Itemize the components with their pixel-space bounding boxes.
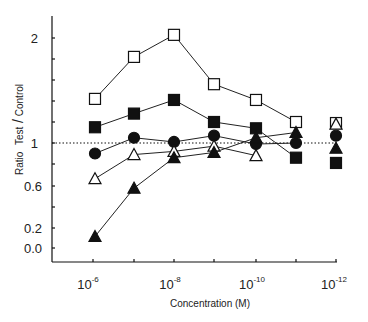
data-point-square-icon: [251, 94, 262, 105]
data-point-square-icon: [209, 117, 220, 128]
line-chart: 2 1 0.6 0.2 0.0 Ratio Test / Control 10-…: [0, 0, 368, 322]
data-point-triangle-icon: [330, 142, 342, 153]
data-point-circle-icon: [331, 130, 342, 141]
y-tick-label: 0.2: [24, 221, 42, 236]
data-point-square-icon: [90, 122, 101, 133]
data-point-triangle-icon: [89, 230, 101, 241]
data-point-square-icon: [129, 108, 140, 119]
y-axis-title: Ratio Test / Control: [10, 84, 26, 175]
data-point-triangle-icon: [89, 173, 101, 184]
data-point-square-icon: [169, 94, 180, 105]
x-tick-label: 10-12: [321, 275, 348, 292]
y-tick-label: 0.0: [24, 241, 42, 256]
data-point-triangle-icon: [290, 127, 302, 138]
x-tick-label: 10-10: [239, 275, 266, 292]
data-point-square-icon: [129, 51, 140, 62]
data-point-square-icon: [169, 29, 180, 40]
data-point-circle-icon: [129, 132, 140, 143]
y-tick-label: 1: [31, 136, 38, 151]
data-point-square-icon: [331, 157, 342, 168]
y-tick-label: 0.6: [24, 179, 42, 194]
series-open-square: [90, 29, 342, 128]
data-point-triangle-icon: [128, 182, 140, 193]
y-axis: [52, 16, 55, 262]
x-tick-label: 10-6: [77, 275, 99, 292]
data-point-square-icon: [209, 79, 220, 90]
series-layer: [89, 29, 342, 241]
x-tick-label: 10-8: [159, 275, 181, 292]
data-point-circle-icon: [291, 138, 302, 149]
data-point-circle-icon: [90, 148, 101, 159]
data-point-square-icon: [291, 152, 302, 163]
data-point-square-icon: [90, 93, 101, 104]
svg-text:Ratio Test /: Ratio Test / Control: [10, 84, 26, 175]
y-tick-label: 2: [31, 31, 38, 46]
x-axis-title: Concentration (M): [170, 298, 250, 309]
x-axis: [52, 259, 337, 262]
